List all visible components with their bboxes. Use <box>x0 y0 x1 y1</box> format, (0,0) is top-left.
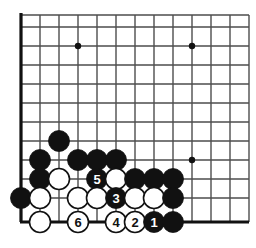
go-board-canvas <box>0 0 256 248</box>
white-stone-p <box>125 188 146 209</box>
go-board-diagram: 536421 <box>0 0 256 248</box>
star-point-lower-right <box>189 157 195 163</box>
white-stone-q <box>144 188 165 209</box>
black-stone-b <box>30 150 51 171</box>
white-stone-move-6 <box>68 212 89 233</box>
white-stone-m <box>30 188 51 209</box>
black-stone-a <box>49 131 70 152</box>
black-stone-r <box>163 188 184 209</box>
black-stone-d <box>87 150 108 171</box>
black-stone-move-3 <box>106 188 127 209</box>
white-stone-g <box>49 169 70 190</box>
black-stone-f <box>30 169 51 190</box>
black-stone-t <box>163 212 184 233</box>
black-stone-c <box>68 150 89 171</box>
black-stone-j <box>144 169 165 190</box>
white-stone-s <box>30 212 51 233</box>
white-stone-n <box>68 188 89 209</box>
black-stone-e <box>106 150 127 171</box>
star-point-upper-right <box>189 43 195 49</box>
white-stone-move-2 <box>125 212 146 233</box>
black-stone-l <box>11 188 32 209</box>
white-stone-o <box>87 188 108 209</box>
white-stone-move-4 <box>106 212 127 233</box>
star-point-upper-left <box>75 43 81 49</box>
black-stone-move-1 <box>144 212 165 233</box>
white-stone-h <box>106 169 127 190</box>
black-stone-k <box>163 169 184 190</box>
black-stone-i <box>125 169 146 190</box>
black-stone-move-5 <box>87 169 108 190</box>
